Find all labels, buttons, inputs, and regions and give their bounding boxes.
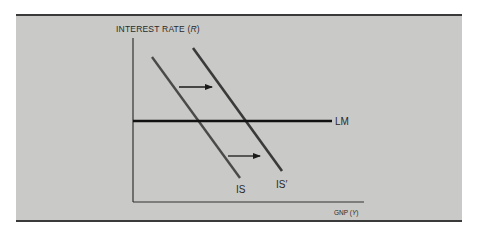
is-curve <box>152 57 240 178</box>
is-label: IS <box>236 184 246 195</box>
y-axis-label: INTEREST RATE (R) <box>116 24 200 34</box>
lm-label: LM <box>335 116 349 127</box>
is-lm-diagram: INTEREST RATE (R) GNP (Y) LM IS IS′ <box>0 0 477 234</box>
x-axis-label: GNP (Y) <box>334 209 358 217</box>
is-prime-label: IS′ <box>276 179 287 190</box>
is-prime-curve <box>193 48 282 171</box>
